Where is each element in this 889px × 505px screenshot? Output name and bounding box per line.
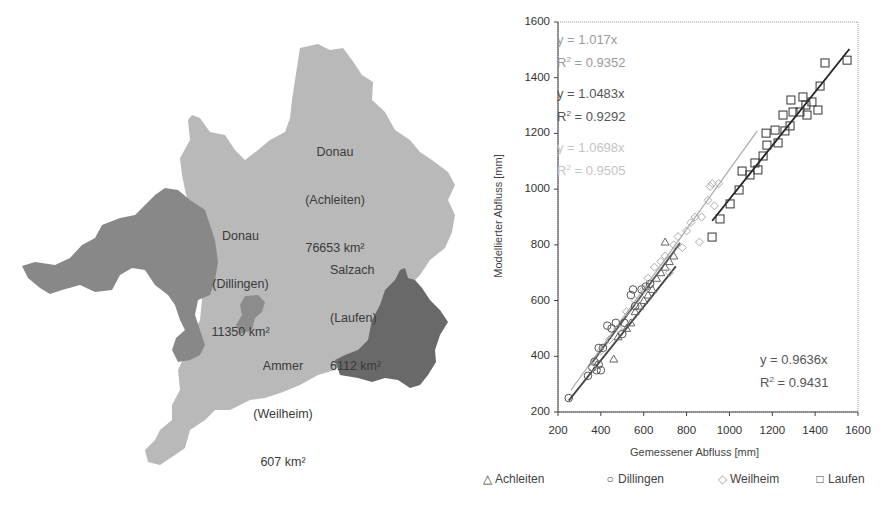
label-laufen-gauge: (Laufen) — [330, 310, 400, 326]
x-tick-label: 1200 — [756, 424, 788, 436]
point-laufen — [762, 129, 770, 137]
label-weilheim-gauge: (Weilheim) — [243, 406, 323, 422]
x-tick-label: 400 — [585, 424, 617, 436]
x-tick-label: 800 — [671, 424, 703, 436]
legend-achleiten: △Achleiten — [482, 472, 544, 486]
equation-3: y = 1.0698x R2 = 0.9505 — [557, 138, 625, 181]
point-achleiten — [661, 238, 669, 245]
label-achleiten-gauge: (Achleiten) — [300, 192, 370, 208]
legend-weilheim: ◇Weilheim — [717, 472, 779, 486]
catchment-map: Donau (Achleiten) 76653 km² Donau (Dilli… — [0, 0, 470, 505]
point-laufen — [771, 126, 779, 134]
equation-4-r2: R2 = 0.9431 — [760, 370, 828, 393]
y-tick-label: 600 — [516, 294, 550, 306]
equation-3-line: y = 1.0698x — [557, 138, 625, 158]
label-dillingen-gauge: (Dillingen) — [203, 276, 278, 292]
point-achleiten — [610, 355, 618, 362]
x-tick-label: 1400 — [799, 424, 831, 436]
equation-1: y = 1.017x R2 = 0.9352 — [557, 30, 625, 73]
scatter-chart: 2004006008001000120014001600200400600800… — [470, 0, 889, 505]
point-laufen — [787, 96, 795, 104]
y-tick-label: 1400 — [516, 71, 550, 83]
region-dillingen — [22, 188, 218, 362]
point-weilheim — [710, 202, 718, 210]
x-tick-label: 600 — [628, 424, 660, 436]
y-axis-title: Modellierter Abfluss [mm] — [492, 146, 504, 286]
legend-dillingen: ○Dillingen — [605, 472, 664, 486]
square-icon: □ — [815, 472, 825, 486]
x-tick-label: 1600 — [842, 424, 874, 436]
label-laufen-river: Salzach — [330, 262, 400, 278]
equation-1-r2: R2 = 0.9352 — [557, 50, 625, 73]
point-laufen — [738, 167, 746, 175]
point-weilheim — [695, 238, 703, 246]
label-weilheim: Ammer (Weilheim) 607 km² — [243, 326, 323, 502]
x-axis-title: Gemessener Abfluss [mm] — [630, 446, 759, 458]
point-laufen — [821, 59, 829, 67]
equation-1-line: y = 1.017x — [557, 30, 625, 50]
circle-icon: ○ — [605, 472, 615, 486]
label-laufen: Salzach (Laufen) 6112 km² — [330, 230, 400, 406]
label-weilheim-area: 607 km² — [243, 454, 323, 470]
equation-3-r2: R2 = 0.9505 — [557, 158, 625, 181]
legend-achleiten-label: Achleiten — [495, 472, 544, 486]
point-laufen — [708, 233, 716, 241]
legend-dillingen-label: Dillingen — [618, 472, 664, 486]
equation-2-line: y = 1.0483x — [557, 84, 625, 104]
label-dillingen-river: Donau — [203, 228, 278, 244]
x-tick-label: 1000 — [713, 424, 745, 436]
y-tick-label: 1600 — [516, 15, 550, 27]
label-laufen-area: 6112 km² — [330, 358, 400, 374]
y-tick-label: 800 — [516, 238, 550, 250]
y-tick-label: 1200 — [516, 126, 550, 138]
equation-2-r2: R2 = 0.9292 — [557, 104, 625, 127]
trendline-dillingen — [569, 266, 676, 400]
legend-weilheim-label: Weilheim — [730, 472, 779, 486]
y-tick-label: 1000 — [516, 182, 550, 194]
triangle-icon: △ — [482, 472, 492, 486]
equation-4-line: y = 0.9636x — [760, 350, 828, 370]
y-tick-label: 200 — [516, 405, 550, 417]
x-tick-label: 200 — [542, 424, 574, 436]
equation-2: y = 1.0483x R2 = 0.9292 — [557, 84, 625, 127]
diamond-icon: ◇ — [717, 472, 727, 486]
point-laufen — [716, 215, 724, 223]
label-achleiten-river: Donau — [300, 144, 370, 160]
equation-4: y = 0.9636x R2 = 0.9431 — [760, 350, 828, 393]
point-laufen — [814, 106, 822, 114]
point-laufen — [779, 111, 787, 119]
legend-laufen-label: Laufen — [828, 472, 865, 486]
point-laufen — [843, 56, 851, 64]
y-tick-label: 400 — [516, 349, 550, 361]
legend-laufen: □Laufen — [815, 472, 865, 486]
label-weilheim-river: Ammer — [243, 358, 323, 374]
point-laufen — [799, 93, 807, 101]
